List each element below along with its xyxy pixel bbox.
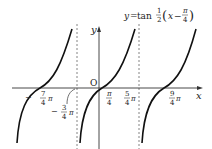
curve-branch-right	[142, 29, 196, 143]
svg-text:4: 4	[41, 99, 46, 107]
svg-text:π: π	[106, 90, 112, 98]
svg-text:y: y	[123, 11, 130, 21]
svg-text:4: 4	[183, 16, 188, 24]
svg-text:): )	[189, 8, 194, 23]
curve-branch-left	[17, 29, 72, 143]
equation-label: y = tan 1 2 ( x − π 4 )	[123, 7, 194, 24]
y-axis-label: y	[90, 24, 97, 35]
svg-text:π: π	[68, 109, 74, 117]
tick-label-pi-4: π 4	[106, 90, 112, 107]
tick-label-5pi-4: 5 4 π	[124, 90, 136, 107]
tick-label-neg-3pi-4: − 3 4 π	[51, 104, 74, 121]
svg-text:π: π	[47, 95, 53, 103]
y-axis-arrow-icon	[97, 26, 101, 32]
tick-label-neg-7pi-4: − 7 4 π	[25, 90, 53, 107]
svg-text:π: π	[182, 7, 188, 15]
svg-text:x: x	[168, 11, 173, 21]
svg-text:4: 4	[170, 99, 175, 107]
svg-text:π: π	[175, 95, 181, 103]
x-axis-label: x	[196, 90, 202, 101]
svg-text:−: −	[25, 93, 32, 102]
svg-text:9: 9	[170, 90, 174, 98]
origin-label: O	[90, 78, 97, 88]
svg-text:1: 1	[157, 7, 161, 15]
svg-text:−: −	[51, 107, 58, 116]
pointer-arrow	[67, 89, 75, 104]
svg-text:tan: tan	[137, 11, 152, 21]
svg-text:−: −	[174, 11, 182, 21]
svg-text:2: 2	[157, 16, 161, 24]
svg-text:4: 4	[107, 99, 112, 107]
svg-text:4: 4	[125, 99, 130, 107]
svg-text:5: 5	[125, 90, 129, 98]
curve-branch-middle	[80, 29, 135, 143]
svg-text:3: 3	[62, 104, 66, 112]
svg-text:(: (	[162, 8, 167, 23]
svg-text:π: π	[130, 95, 136, 103]
tangent-graph: y x O − 7 4 π − 3 4 π π 4 5 4 π 9 4 π y …	[0, 0, 212, 149]
svg-text:7: 7	[41, 90, 45, 98]
tick-label-9pi-4: 9 4 π	[169, 90, 181, 107]
svg-text:4: 4	[62, 113, 67, 121]
